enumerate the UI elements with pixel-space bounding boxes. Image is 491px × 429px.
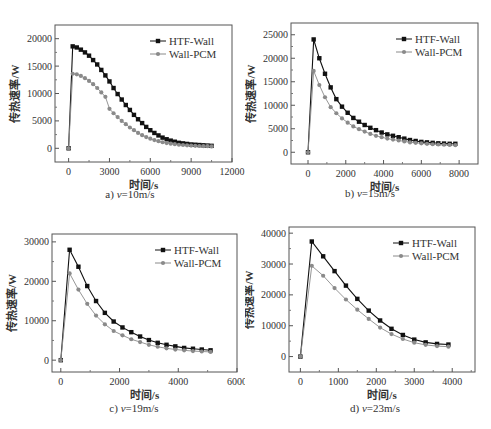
marker-square xyxy=(334,97,338,101)
marker-square xyxy=(355,297,359,301)
marker-circle xyxy=(185,143,189,147)
marker-circle xyxy=(329,105,333,109)
marker-square xyxy=(317,56,321,60)
marker-circle xyxy=(200,349,204,353)
y-tick-label: 10000 xyxy=(27,88,52,99)
legend-label: Wall-PCM xyxy=(412,250,460,262)
marker-circle xyxy=(446,345,450,349)
chart-c: 01000020000300000200040006000时间/s传热速率/WH… xyxy=(0,210,245,410)
marker-square xyxy=(311,37,315,41)
marker-circle xyxy=(71,72,75,76)
marker-square xyxy=(76,265,80,269)
marker-circle xyxy=(397,138,401,142)
y-tick-label: 20000 xyxy=(261,289,286,300)
marker-circle xyxy=(310,264,314,268)
marker-circle xyxy=(453,143,457,147)
marker-circle xyxy=(169,142,173,146)
marker-circle xyxy=(182,348,186,352)
marker-square xyxy=(374,128,378,132)
x-tick-label: 1000 xyxy=(328,376,348,387)
marker-circle xyxy=(355,308,359,312)
marker-square xyxy=(91,58,95,62)
marker-square xyxy=(357,120,361,124)
marker-square xyxy=(164,137,168,141)
y-tick-label: 40000 xyxy=(261,228,286,239)
marker-square xyxy=(340,104,344,108)
marker-square xyxy=(107,79,111,83)
x-tick-label: 8000 xyxy=(449,168,469,179)
chart-a: 05000100001500020000030006000900012000时间… xyxy=(0,0,245,200)
chart-panel-a: 05000100001500020000030006000900012000时间… xyxy=(0,0,245,204)
marker-square xyxy=(71,44,75,48)
marker-circle xyxy=(156,345,160,349)
marker-circle xyxy=(193,144,197,148)
marker-circle xyxy=(402,139,406,143)
x-tick-label: 0 xyxy=(66,166,71,177)
marker-square xyxy=(132,113,136,117)
marker-circle xyxy=(107,107,111,111)
caption-b: b) v=15m/s xyxy=(320,187,420,199)
marker-square xyxy=(345,111,349,115)
marker-square xyxy=(368,126,372,130)
x-tick-label: 12000 xyxy=(220,166,245,177)
marker-circle xyxy=(132,128,136,132)
marker-circle xyxy=(120,119,124,123)
marker-circle xyxy=(156,139,160,143)
marker-circle xyxy=(87,79,91,83)
marker-square xyxy=(148,128,152,132)
y-axis-label: 传热速率/W xyxy=(245,270,255,329)
marker-circle xyxy=(442,143,446,147)
y-tick-label: 5000 xyxy=(268,123,288,134)
marker-circle xyxy=(140,133,144,137)
marker-square xyxy=(156,341,160,345)
marker-square xyxy=(136,117,140,121)
marker-circle xyxy=(191,349,195,353)
marker-circle xyxy=(298,354,302,358)
legend-marker-circle xyxy=(402,50,406,54)
marker-square xyxy=(160,135,164,139)
marker-circle xyxy=(340,116,344,120)
marker-square xyxy=(95,62,99,66)
marker-square xyxy=(332,269,336,273)
marker-square xyxy=(401,333,405,337)
figure-footer-caption xyxy=(130,418,420,424)
marker-circle xyxy=(334,111,338,115)
legend-marker-square xyxy=(161,248,165,252)
marker-square xyxy=(389,327,393,331)
chart-d: 01000020000300004000001000200030004000时间… xyxy=(245,210,491,410)
marker-circle xyxy=(138,340,142,344)
marker-circle xyxy=(425,142,429,146)
legend-marker-circle xyxy=(399,254,403,258)
marker-square xyxy=(378,318,382,322)
marker-circle xyxy=(75,72,79,76)
y-tick-label: 0 xyxy=(281,351,286,362)
marker-square xyxy=(85,284,89,288)
chart-panel-b: 0500010000150002000025000020004000600080… xyxy=(245,0,491,204)
marker-circle xyxy=(435,344,439,348)
caption-c: c) v=19m/s xyxy=(84,402,184,414)
legend: HTF-WallWall-PCM xyxy=(393,237,460,262)
marker-circle xyxy=(147,343,151,347)
marker-circle xyxy=(136,131,140,135)
marker-circle xyxy=(94,314,98,318)
marker-square xyxy=(128,108,132,112)
marker-circle xyxy=(173,142,177,146)
marker-square xyxy=(67,248,71,252)
marker-circle xyxy=(91,82,95,86)
y-tick-label: 15000 xyxy=(263,76,288,87)
y-tick-label: 10000 xyxy=(24,315,49,326)
y-tick-label: 30000 xyxy=(261,259,286,270)
marker-circle xyxy=(374,134,378,138)
marker-circle xyxy=(103,95,107,99)
marker-square xyxy=(156,133,160,137)
legend-marker-square xyxy=(402,37,406,41)
marker-square xyxy=(99,68,103,72)
x-tick-label: 4000 xyxy=(374,168,394,179)
legend-label: Wall-PCM xyxy=(174,257,222,269)
x-tick-label: 6000 xyxy=(140,166,160,177)
marker-square xyxy=(111,86,115,90)
marker-square xyxy=(87,53,91,57)
marker-square xyxy=(344,283,348,287)
x-tick-label: 3000 xyxy=(404,376,424,387)
marker-circle xyxy=(323,95,327,99)
